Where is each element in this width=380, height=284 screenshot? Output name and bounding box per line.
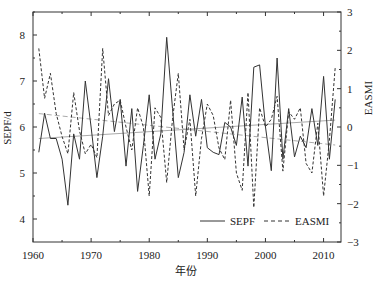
y-axis-right-title: EASMI (362, 81, 374, 116)
y-tick-label-left: 4 (20, 213, 26, 225)
y-tick-label-left: 7 (20, 75, 26, 87)
y-axis-left-title: SEPF/d (1, 111, 13, 145)
data-series (39, 37, 335, 207)
y-axis-left: 45678 (20, 12, 38, 225)
chart-container: 196019701980199020002010 45678 −3−2−1012… (0, 0, 380, 284)
y-axis-right: −3−2−10123 (337, 6, 359, 248)
x-tick-label: 2010 (313, 249, 336, 261)
y-tick-label-left: 5 (20, 167, 26, 179)
x-tick-label: 1970 (80, 249, 103, 261)
x-tick-label: 1960 (22, 249, 45, 261)
series-sepf (39, 37, 335, 205)
y-tick-label-right: 3 (347, 6, 353, 18)
x-tick-label: 1980 (138, 249, 161, 261)
x-axis-title: 年份 (175, 264, 197, 277)
y-tick-label-right: −2 (347, 198, 359, 210)
x-tick-label: 2000 (254, 249, 277, 261)
y-tick-label-right: −3 (347, 236, 359, 248)
y-tick-label-right: −1 (347, 159, 359, 171)
legend: SEPF EASMI (200, 215, 330, 227)
y-tick-label-right: 1 (347, 83, 353, 95)
y-tick-label-left: 6 (20, 121, 26, 133)
legend-label-easmi: EASMI (295, 215, 330, 227)
y-tick-label-right: 0 (347, 121, 353, 133)
x-tick-label: 1990 (196, 249, 219, 261)
chart-svg: 196019701980199020002010 45678 −3−2−1012… (0, 0, 380, 284)
legend-label-sepf: SEPF (230, 215, 255, 227)
y-tick-label-right: 2 (347, 44, 353, 56)
y-tick-label-left: 8 (20, 29, 26, 41)
